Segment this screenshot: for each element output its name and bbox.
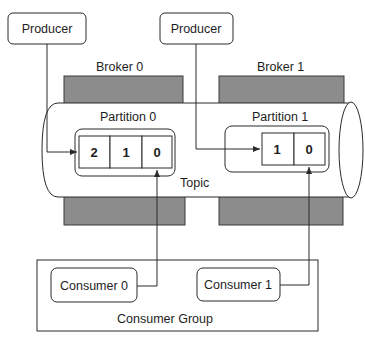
broker-1-top-block — [219, 76, 344, 106]
broker-1-bottom-block — [219, 194, 343, 225]
partition-0-label: Partition 0 — [100, 110, 156, 124]
producer-1-label: Producer — [171, 22, 222, 36]
consumer-group-label: Consumer Group — [117, 312, 213, 326]
partition-1-label: Partition 1 — [252, 110, 308, 124]
broker-0-label: Broker 0 — [96, 60, 143, 74]
topic-label: Topic — [180, 176, 209, 190]
consumer-group: Consumer Group Consumer 0 Consumer 1 — [37, 260, 318, 331]
partition-1-offset-1: 1 — [273, 142, 280, 157]
topic-cylinder-end — [339, 102, 363, 198]
partition-1-offset-0: 0 — [305, 142, 312, 157]
consumer-0-label: Consumer 0 — [60, 279, 128, 293]
broker-0-top-block — [64, 76, 183, 106]
broker-0-bottom-block — [64, 194, 185, 225]
broker-1-label: Broker 1 — [257, 60, 304, 74]
producer-1: Producer — [160, 13, 233, 44]
partition-0-offset-0: 0 — [153, 145, 160, 160]
producer-0-label: Producer — [22, 22, 73, 36]
producer-0: Producer — [8, 13, 86, 44]
consumer-1-label: Consumer 1 — [204, 278, 272, 292]
partition-0-offset-1: 1 — [122, 145, 129, 160]
kafka-diagram: Broker 0 Broker 1 Topic Partition 0 2 1 … — [0, 0, 365, 339]
partition-0-offset-2: 2 — [90, 145, 97, 160]
